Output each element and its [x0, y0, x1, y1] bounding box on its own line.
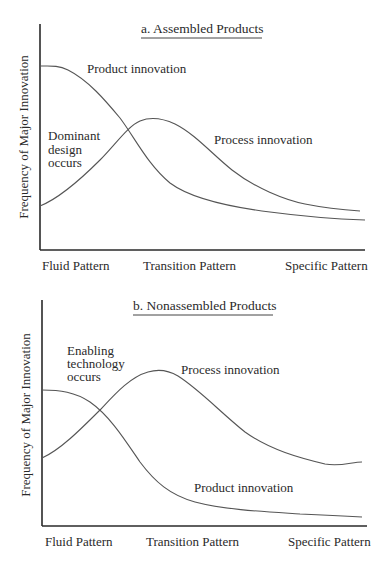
- panel-b-xtick-specific: Specific Pattern: [288, 534, 371, 549]
- panel-b-product-innovation-curve: [42, 390, 362, 517]
- panel-a-dominant-design-annotation: Dominant design occurs: [48, 128, 103, 170]
- panel-a-xtick-specific: Specific Pattern: [285, 258, 368, 273]
- panel-a-xtick-fluid: Fluid Pattern: [42, 258, 110, 273]
- panel-b-nonassembled-products: b. Nonassembled Products Frequency of Ma…: [18, 298, 371, 549]
- panel-a-xtick-transition: Transition Pattern: [143, 258, 237, 273]
- innovation-figure: a. Assembled Products Frequency of Major…: [0, 0, 391, 570]
- panel-a-assembled-products: a. Assembled Products Frequency of Major…: [16, 21, 368, 273]
- panel-b-enabling-technology-annotation: Enabling technology occurs: [67, 343, 128, 384]
- panel-b-title: b. Nonassembled Products: [133, 298, 277, 313]
- panel-a-process-innovation-label: Process innovation: [214, 132, 313, 147]
- panel-a-title: a. Assembled Products: [141, 21, 264, 36]
- panel-b-xtick-transition: Transition Pattern: [146, 534, 240, 549]
- panel-b-xtick-fluid: Fluid Pattern: [45, 534, 113, 549]
- panel-b-product-innovation-label: Product innovation: [194, 480, 294, 495]
- panel-b-process-innovation-curve: [42, 370, 362, 465]
- panel-a-y-axis-label: Frequency of Major Innovation: [16, 55, 31, 219]
- panel-b-process-innovation-label: Process innovation: [181, 362, 280, 377]
- panel-b-y-axis-label: Frequency of Major Innovation: [18, 333, 33, 497]
- panel-a-product-innovation-label: Product innovation: [87, 61, 187, 76]
